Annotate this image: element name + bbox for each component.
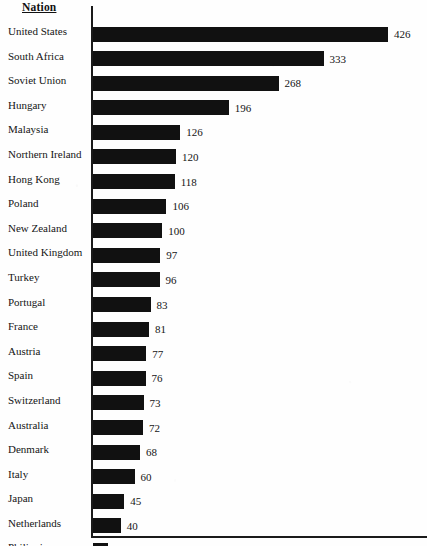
bar-value-label: 106	[172, 200, 189, 212]
bar-row: Hungary196	[0, 96, 427, 121]
bar-category-label: Netherlands	[8, 517, 61, 529]
bar-value-label: 120	[182, 151, 199, 163]
bar-value-label: 333	[330, 53, 347, 65]
bar	[93, 125, 180, 140]
bar-value-label: 83	[157, 299, 168, 311]
bar	[93, 518, 121, 533]
bar	[93, 469, 135, 484]
bar-row: Japan45	[0, 489, 427, 514]
bar-value-label: 76	[152, 372, 163, 384]
bar-value-label: 72	[149, 422, 160, 434]
bar-row: Italy60	[0, 465, 427, 490]
bar-row: Hong Kong118	[0, 170, 427, 195]
bar-value-label: 97	[166, 249, 177, 261]
bar-and-value: 97	[93, 248, 177, 263]
bar-and-value: 40	[93, 518, 138, 533]
bar-row: Australia72	[0, 416, 427, 441]
bar-and-value: 333	[93, 51, 346, 66]
bar-row: France81	[0, 317, 427, 342]
bar-value-label: 77	[152, 348, 163, 360]
bar	[93, 371, 146, 386]
bar-and-value: 268	[93, 76, 301, 91]
bar-value-label: 100	[168, 225, 185, 237]
bar-value-label: 73	[150, 397, 161, 409]
bar-value-label: 81	[155, 323, 166, 335]
bar	[93, 494, 124, 509]
bar-row: New Zealand100	[0, 219, 427, 244]
bar-value-label: 118	[181, 176, 197, 188]
bar-row: South Africa333	[0, 47, 427, 72]
bar-and-value: 126	[93, 125, 203, 140]
bar	[93, 272, 160, 287]
bar-row: Turkey96	[0, 268, 427, 293]
bar	[93, 149, 176, 164]
bar-and-value: 73	[93, 395, 161, 410]
bar-value-label: 126	[186, 126, 203, 138]
bar-category-label: Austria	[8, 345, 40, 357]
bar-value-label: 60	[141, 471, 152, 483]
bar-row: Northern Ireland120	[0, 145, 427, 170]
bar-value-label: 96	[166, 274, 177, 286]
bar-value-label: 68	[146, 446, 157, 458]
bar-and-value: 60	[93, 469, 152, 484]
bar	[93, 100, 229, 115]
bar	[93, 395, 144, 410]
bar-category-label: Poland	[8, 197, 39, 209]
bar	[93, 346, 146, 361]
bar	[93, 322, 149, 337]
bar-value-label: 268	[285, 77, 302, 89]
bar-and-value: 81	[93, 322, 166, 337]
bar-rows: United States426South Africa333Soviet Un…	[0, 22, 427, 546]
bar-category-label: Philippines	[8, 541, 58, 546]
bar-and-value: 96	[93, 272, 177, 287]
nation-column-header: Nation	[22, 1, 56, 13]
bar-row: Poland106	[0, 194, 427, 219]
bar-row: Austria77	[0, 342, 427, 367]
bar-row: Malaysia126	[0, 120, 427, 145]
bar-and-value: 118	[93, 174, 197, 189]
bar-category-label: Spain	[8, 369, 33, 381]
bar-and-value: 106	[93, 199, 189, 214]
bar-and-value: 83	[93, 297, 168, 312]
bar-and-value: 426	[93, 27, 411, 42]
bar-category-label: Turkey	[8, 271, 39, 283]
bar-chart: Nation United States426South Africa333So…	[0, 0, 427, 546]
bar	[93, 174, 175, 189]
bar-row: United Kingdom97	[0, 243, 427, 268]
bar-row: United States426	[0, 22, 427, 47]
bar-category-label: South Africa	[8, 50, 64, 62]
bar-value-label: 40	[127, 520, 138, 532]
bar	[93, 420, 143, 435]
bar-and-value: 68	[93, 445, 157, 460]
bar-category-label: Northern Ireland	[8, 148, 82, 160]
bar-and-value: 77	[93, 346, 163, 361]
bar-category-label: Japan	[8, 492, 33, 504]
bar-category-label: France	[8, 320, 38, 332]
bar-category-label: Australia	[8, 419, 48, 431]
bar	[93, 27, 388, 42]
bar-and-value: 196	[93, 100, 251, 115]
bar-category-label: United Kingdom	[8, 246, 82, 258]
bar-value-label: 196	[235, 102, 252, 114]
bar-row: Switzerland73	[0, 391, 427, 416]
bar-row: Soviet Union268	[0, 71, 427, 96]
bar	[93, 445, 140, 460]
bar-category-label: Denmark	[8, 443, 49, 455]
bar-row: Spain76	[0, 366, 427, 391]
bar	[93, 51, 324, 66]
bar	[93, 76, 279, 91]
bar-category-label: Malaysia	[8, 123, 48, 135]
bar-category-label: Italy	[8, 468, 28, 480]
bar	[93, 248, 160, 263]
bar-row: Denmark68	[0, 440, 427, 465]
bar-category-label: Hong Kong	[8, 173, 60, 185]
bar	[93, 297, 151, 312]
bar-and-value: 120	[93, 149, 199, 164]
bar-and-value: 72	[93, 420, 160, 435]
bar-value-label: 45	[130, 495, 141, 507]
bar-and-value: 76	[93, 371, 163, 386]
bar-category-label: United States	[8, 25, 67, 37]
bar-category-label: Portugal	[8, 296, 45, 308]
bar-row: Philippines22	[0, 538, 427, 546]
bar	[93, 223, 162, 238]
